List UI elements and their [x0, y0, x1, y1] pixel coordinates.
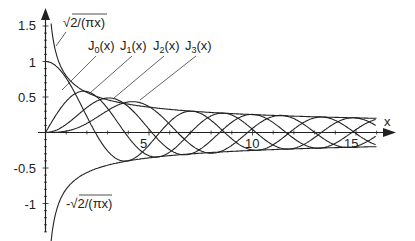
svg-text:J3(x): J3(x)	[185, 38, 212, 55]
label-J0: J0(x)	[62, 38, 115, 90]
leader-line	[114, 56, 164, 98]
y-tick-label-neg1: -1	[24, 197, 36, 212]
svg-text:√2/(πx): √2/(πx)	[63, 15, 105, 30]
x-tick-label-15: 15	[344, 136, 358, 151]
y-tick-label-1: 1	[29, 55, 36, 70]
leader-line	[140, 56, 196, 100]
curve--√2/(πx)	[51, 147, 376, 241]
y-tick-label-0.5: 0.5	[18, 90, 36, 105]
leader-line	[90, 56, 132, 93]
svg-text:-√2/(πx): -√2/(πx)	[66, 196, 112, 211]
curve-J0(x)	[46, 62, 376, 162]
x-axis-label: x	[384, 114, 391, 129]
curve-J3(x)	[46, 102, 376, 154]
curve-J2(x)	[46, 98, 376, 155]
y-axis-arrow-icon	[41, 8, 50, 20]
leader-line	[56, 32, 66, 46]
bessel-function-chart: x 5 10 15 1.5 1 0.5 -0.5 -1 √2/(πx) -√2/…	[0, 0, 415, 241]
x-axis-arrow-icon	[383, 128, 396, 137]
svg-text:J1(x): J1(x)	[120, 38, 147, 55]
y-tick-label-1.5: 1.5	[18, 18, 36, 33]
x-tick-label-5: 5	[140, 136, 147, 151]
leader-line	[62, 56, 96, 90]
svg-text:J0(x): J0(x)	[88, 38, 115, 55]
x-tick-label-10: 10	[245, 136, 259, 151]
envelope-lower-label: -√2/(πx)	[66, 195, 112, 211]
svg-text:J2(x): J2(x)	[153, 38, 180, 55]
y-tick-label-neg0.5: -0.5	[14, 161, 36, 176]
